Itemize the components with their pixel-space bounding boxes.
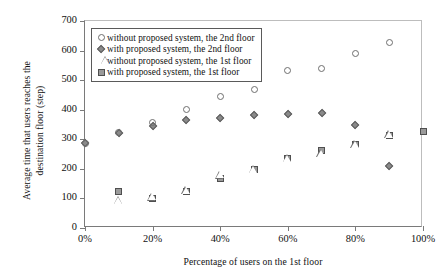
data-point [183,106,190,113]
y-axis-tick-label: 700 [37,14,77,25]
data-point [216,113,225,122]
x-axis-tick [220,226,221,231]
scatter-chart-figure: Average time that users reaches the dest… [0,0,447,278]
y-axis-tick-label: 0 [37,221,77,232]
data-point [250,110,259,119]
x-axis-tick-label: 0% [58,233,112,244]
legend-item: without proposed system, the 2nd floor [96,32,255,44]
legend-item: with proposed system, the 2nd floor [96,44,255,56]
legend-item-label: without proposed system, the 2nd floor [107,33,255,43]
data-point [420,128,427,135]
data-point [217,93,224,100]
data-point [284,67,291,74]
legend-item-label: with proposed system, the 1st floor [107,67,239,77]
data-point [386,39,393,46]
x-axis-tick-label: 40% [193,233,247,244]
x-axis-title: Percentage of users on the 1st floor [84,256,422,267]
y-axis-tick-label: 300 [37,132,77,143]
data-point [385,162,394,171]
y-axis-tick [80,80,85,81]
x-axis-tick [355,226,356,231]
y-axis-tick-label: 400 [37,103,77,114]
y-axis-tick [80,51,85,52]
data-point [115,188,122,195]
data-point [352,50,359,57]
legend-item: without proposed system, the 1st floor [96,55,255,67]
chart-legend: without proposed system, the 2nd floorwi… [91,28,262,82]
x-axis-tick-label: 60% [261,233,315,244]
y-axis-tick-label: 600 [37,44,77,55]
y-axis-tick-label: 500 [37,73,77,84]
open-triangle-icon [96,57,107,65]
data-point [82,140,89,147]
x-axis-tick-label: 100% [396,233,447,244]
y-axis-tick [80,21,85,22]
filled-square-icon [96,69,107,76]
data-point [149,119,156,126]
x-axis-tick-label: 20% [126,233,180,244]
y-axis-tick [80,110,85,111]
x-axis-tick [423,226,424,231]
x-axis-tick [85,226,86,231]
data-point [317,109,326,118]
y-axis-tick-label: 200 [37,162,77,173]
y-axis-tick [80,169,85,170]
y-axis-tick [80,198,85,199]
data-point [351,121,360,130]
x-axis-tick [288,226,289,231]
data-point [182,116,191,125]
y-axis-tick-label: 100 [37,191,77,202]
legend-item: with proposed system, the 1st floor [96,67,255,79]
open-circle-icon [96,34,107,41]
legend-item-label: with proposed system, the 2nd floor [107,44,243,54]
data-point [318,65,325,72]
data-point [251,86,258,93]
data-point [283,109,292,118]
filled-diamond-icon [96,46,107,52]
legend-item-label: without proposed system, the 1st floor [107,56,251,66]
x-axis-tick [153,226,154,231]
x-axis-tick-label: 80% [328,233,382,244]
